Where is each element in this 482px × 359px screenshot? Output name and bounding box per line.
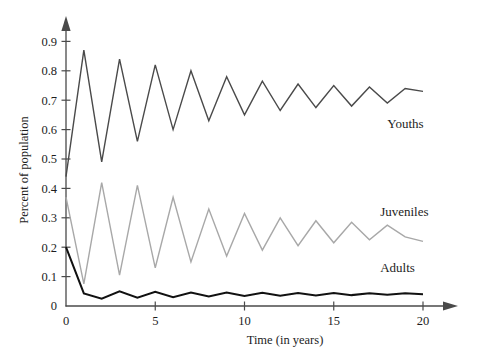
series-label-youths: Youths [387,116,423,131]
y-tick-label: 0.9 [41,35,57,49]
chart-background [0,0,482,359]
x-tick-label: 15 [328,314,341,328]
y-tick-label: 0 [51,299,57,313]
y-tick-label: 0.6 [41,123,57,137]
y-axis-title: Percent of population [17,115,31,223]
y-tick-label: 0.7 [41,94,57,108]
x-tick-label: 10 [238,314,251,328]
series-label-adults: Adults [380,260,415,275]
chart-figure: 00.10.20.30.40.50.60.70.80.9 05101520 Yo… [0,0,482,359]
series-label-juveniles: Juveniles [380,204,428,219]
x-tick-label: 20 [417,314,430,328]
x-tick-label: 0 [63,314,69,328]
y-tick-label: 0.4 [41,182,57,196]
y-tick-label: 0.1 [41,270,57,284]
y-tick-label: 0.5 [41,152,57,166]
x-tick-label: 5 [152,314,158,328]
y-tick-label: 0.3 [41,211,57,225]
x-axis-title: Time (in years) [247,333,324,347]
y-tick-label: 0.2 [41,241,57,255]
line-chart-canvas: 00.10.20.30.40.50.60.70.80.9 05101520 Yo… [0,0,482,359]
y-tick-label: 0.8 [41,64,57,78]
